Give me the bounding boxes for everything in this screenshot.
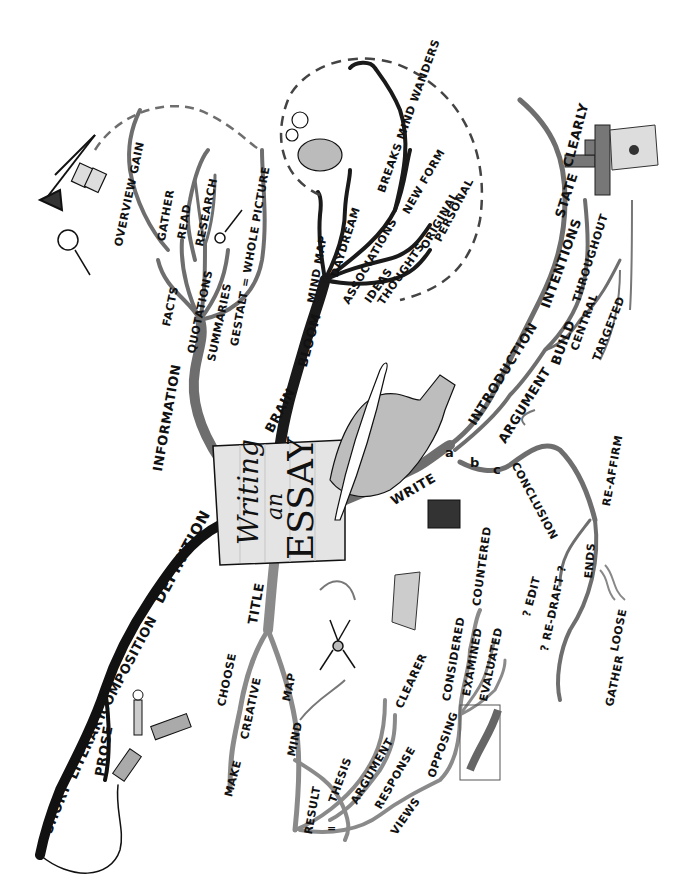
title-branch [230, 556, 505, 840]
arm-wrestle-icon [460, 705, 500, 780]
label-c: c [493, 462, 501, 477]
label-equals: = [327, 822, 337, 835]
information-dashed-loop [95, 106, 262, 150]
definition-branch [40, 525, 220, 873]
binoculars-icon [71, 163, 106, 192]
neuron-icon [320, 620, 355, 670]
magnifier-icon [58, 230, 90, 275]
target-book-icon [610, 125, 658, 170]
label-b: b [470, 455, 480, 470]
saw-icon [133, 690, 143, 735]
loose-ends-lines [600, 565, 625, 600]
key-icon [215, 210, 242, 243]
title-essay: ESSAY [280, 437, 321, 560]
brain-walking-icon [286, 112, 342, 171]
label-a: a [445, 445, 454, 460]
spool-icon [428, 500, 460, 528]
pencil-icon [113, 714, 192, 782]
geometry-card-icon [392, 572, 420, 630]
title-writing: Writing [232, 439, 265, 545]
